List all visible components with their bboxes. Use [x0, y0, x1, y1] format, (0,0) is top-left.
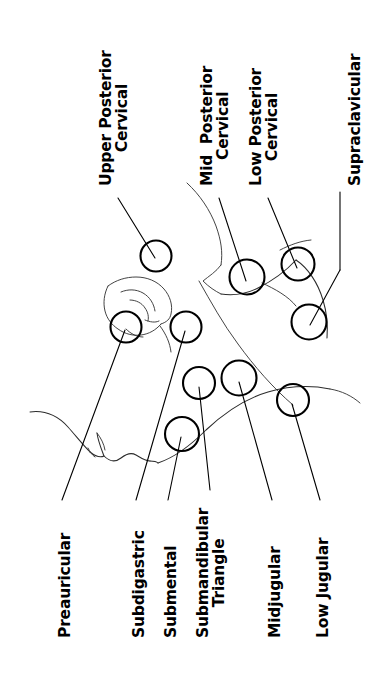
sternocleidomastoid-contour — [199, 281, 293, 405]
label-low-posterior-cervical: Low Posterior Cervical — [248, 68, 280, 186]
ear-outer-helix — [104, 286, 161, 335]
nape-contour — [203, 265, 221, 294]
label-midjugular: Midjugular — [267, 546, 283, 638]
ear-antihelix — [121, 290, 155, 311]
node-submental[interactable] — [165, 417, 199, 451]
brow-contour — [30, 412, 90, 452]
scalp-contour — [187, 183, 222, 265]
label-low-jugular: Low Jugular — [315, 538, 331, 638]
node-supraclavicular[interactable] — [292, 305, 327, 340]
label-supraclavicular: Supraclavicular — [347, 54, 363, 186]
label-submandibular-triangle: Submandibular Triangle — [195, 508, 227, 638]
node-low-posterior-cervical[interactable] — [282, 248, 315, 281]
preauricular-contour — [160, 326, 171, 352]
nose-bridge — [90, 433, 104, 457]
leader-submandibular-triangle — [199, 387, 210, 490]
node-midjugular[interactable] — [222, 361, 257, 396]
node-upper-posterior-cervical[interactable] — [141, 241, 172, 272]
leader-upper-posterior-cervical — [118, 198, 155, 258]
node-subdigastric[interactable] — [171, 312, 202, 343]
posterior-chain-link — [262, 283, 296, 306]
lips-contour — [104, 454, 150, 461]
node-low-jugular[interactable] — [277, 384, 309, 416]
node-mid-posterior-cervical[interactable] — [230, 260, 265, 295]
label-upper-posterior-cervical: Upper Posterior Cervical — [98, 50, 130, 186]
ear-helix-top — [108, 277, 172, 324]
label-mid-posterior-cervical: Mid Posterior Cervical — [199, 66, 231, 186]
ear-tragus — [145, 320, 159, 322]
lower-neck-contour — [330, 389, 360, 403]
lymph-node-diagram: Upper Posterior Cervical Mid Posterior C… — [0, 0, 367, 678]
chin-contour — [150, 461, 158, 463]
leader-low-jugular — [292, 404, 320, 500]
node-submandibular-triangle[interactable] — [183, 367, 215, 399]
leader-midjugular — [239, 382, 272, 500]
label-subdigastric: Subdigastric — [131, 530, 147, 638]
label-preauricular: Preauricular — [57, 533, 73, 638]
label-submental: Submental — [163, 546, 179, 638]
leader-preauricular — [62, 330, 125, 500]
leader-subdigastric — [136, 331, 185, 500]
